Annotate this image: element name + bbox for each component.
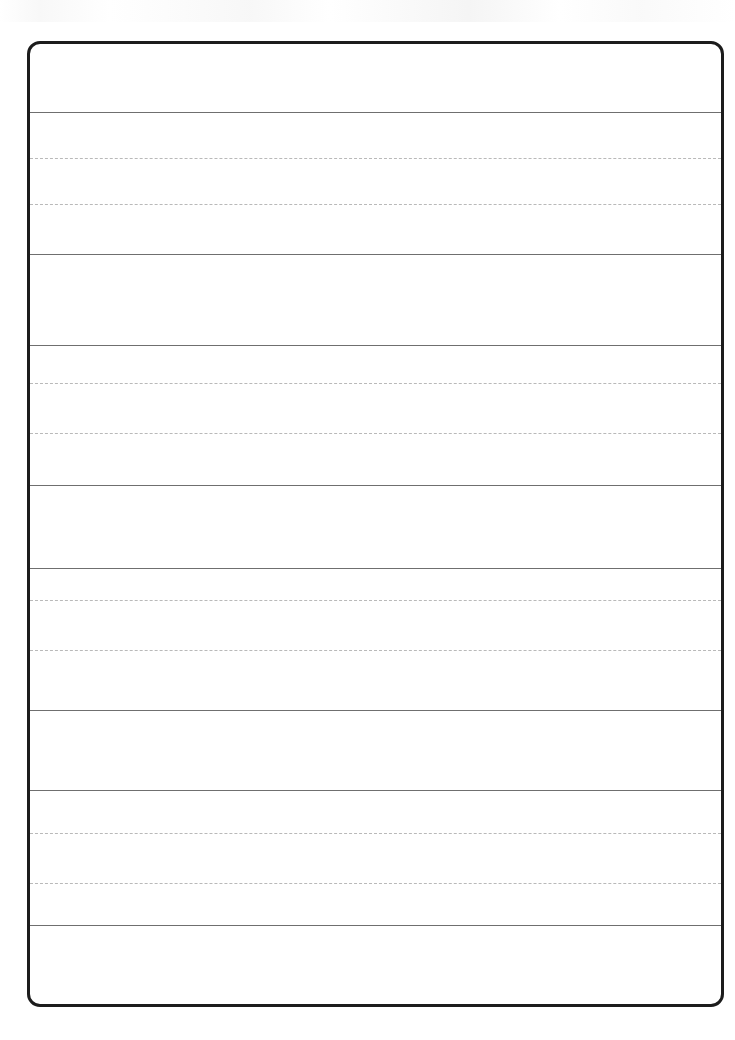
solid-rule-line	[30, 568, 721, 569]
blank-spacer-band[interactable]	[30, 710, 721, 790]
writing-line-band[interactable]	[30, 790, 721, 925]
dotted-guide-line	[30, 833, 721, 834]
blank-spacer-band[interactable]	[30, 925, 721, 1007]
page-title: Blank Lined Handwriting Practice Sheet	[0, 0, 1, 1]
writing-line-band[interactable]	[30, 112, 721, 254]
dotted-guide-line	[30, 650, 721, 651]
blank-spacer-band[interactable]	[30, 485, 721, 568]
dotted-guide-line	[30, 158, 721, 159]
solid-rule-line	[30, 345, 721, 346]
dotted-guide-line	[30, 600, 721, 601]
dotted-guide-line	[30, 383, 721, 384]
solid-rule-line	[30, 925, 721, 926]
solid-rule-line	[30, 710, 721, 711]
solid-rule-line	[30, 790, 721, 791]
solid-rule-line	[30, 112, 721, 113]
writing-line-band[interactable]	[30, 568, 721, 710]
scan-artifact-band	[0, 0, 735, 22]
dotted-guide-line	[30, 433, 721, 434]
blank-spacer-band[interactable]	[30, 41, 721, 112]
blank-spacer-band[interactable]	[30, 254, 721, 345]
worksheet-page: Blank Lined Handwriting Practice Sheet	[0, 0, 735, 1040]
writing-line-band[interactable]	[30, 345, 721, 485]
worksheet-border	[27, 41, 724, 1007]
dotted-guide-line	[30, 883, 721, 884]
dotted-guide-line	[30, 204, 721, 205]
solid-rule-line	[30, 254, 721, 255]
solid-rule-line	[30, 485, 721, 486]
